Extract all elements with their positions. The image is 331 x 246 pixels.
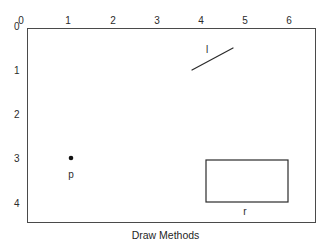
draw-methods-figure: 0 1 2 3 4 5 6 0 1 2 3 4 l p r Draw Metho… — [0, 0, 331, 246]
figure-caption: Draw Methods — [0, 229, 331, 242]
x-tick-6: 6 — [286, 15, 292, 26]
y-tick-0: 0 — [14, 21, 20, 32]
y-tick-3: 3 — [14, 153, 20, 164]
line-label-l: l — [206, 44, 208, 55]
x-tick-4: 4 — [198, 15, 204, 26]
point-label-p: p — [68, 169, 74, 180]
x-tick-5: 5 — [242, 15, 248, 26]
x-tick-3: 3 — [154, 15, 160, 26]
y-tick-4: 4 — [14, 198, 20, 209]
y-tick-1: 1 — [14, 65, 20, 76]
drawing-canvas — [27, 28, 316, 223]
rectangle-label-r: r — [243, 206, 246, 217]
x-tick-2: 2 — [110, 15, 116, 26]
x-tick-1: 1 — [65, 15, 71, 26]
y-tick-2: 2 — [14, 109, 20, 120]
